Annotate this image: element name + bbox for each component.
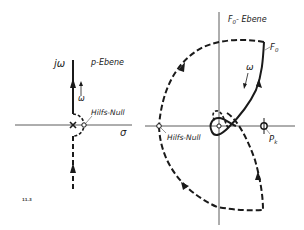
origin-point-icon [217,124,221,128]
imag-axis-label: jω [52,58,65,69]
real-axis-label: σ [120,127,127,138]
aux-zero-label-right: Hilfs-Null [167,133,202,142]
pole-pk-label: Pk [269,134,278,145]
omega-label-left: ω [78,94,85,103]
aux-zero-leader-right [161,128,166,133]
aux-zero-circle-icon [82,123,86,127]
small-down-arrow-icon [243,83,247,89]
f0-plane-label-suffix: - Ebene [236,15,267,24]
f0-curve-label: F0 [270,42,279,53]
f0-plane-label: F0- Ebene [228,15,267,25]
omega-label-right: ω [246,62,254,72]
right-segment-arrow-icon [255,171,261,180]
aux-zero-label-left: Hilfs-Null [91,108,126,117]
f0-plane-panel: F0- Ebene F0 ω Hilfs-Null Pk [145,12,295,225]
dashed-large-arc-upper [159,40,264,126]
small-up-arrow-icon [79,81,83,86]
f0-curve-label-sub: 0 [275,47,279,53]
p-plane-label: p-Ebene [90,58,124,67]
up-arrow-icon [70,78,76,88]
dashed-right-segment [227,113,263,210]
aux-zero-point-icon [157,124,162,129]
f0-locus-curve [211,42,264,135]
arc-arrow-lower-icon [181,182,189,190]
nyquist-diagram: jω p-Ebene ω Hilfs-Null σ 11.3 [0,0,304,230]
figure-number: 11.3 [22,197,32,202]
aux-zero-leader [86,116,92,123]
p-plane-panel: jω p-Ebene ω Hilfs-Null σ 11.3 [15,58,132,202]
pole-pk-label-sub: k [274,139,278,145]
up-arrow-lower-icon [70,163,76,173]
